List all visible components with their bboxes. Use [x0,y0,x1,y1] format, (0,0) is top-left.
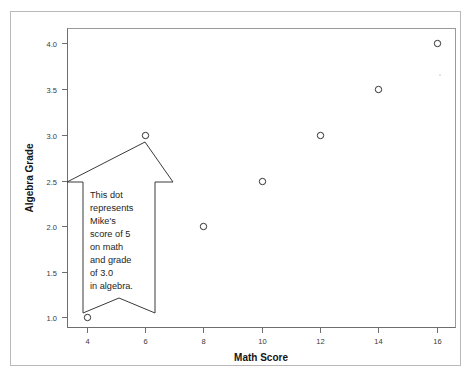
y-tick-label: 2.5 [47,178,57,187]
x-tick-label: 6 [143,337,147,346]
x-tick-label: 16 [433,337,441,346]
y-axis-tick-labels: 4.0 3.5 3.0 2.5 2.0 1.5 1.0 [47,40,57,323]
data-point [317,132,323,138]
print-speck [439,74,441,76]
x-tick-label: 8 [201,337,205,346]
callout-line: of 3.0 [90,268,113,278]
data-point [375,86,381,92]
callout-line: score of 5 [90,229,130,239]
data-point-mike [142,132,148,138]
data-point-series [84,40,440,320]
data-point [84,314,90,320]
x-tick-label: 14 [374,337,382,346]
x-tick-label: 12 [316,337,324,346]
data-point [434,40,440,46]
figure-root: 4.0 3.5 3.0 2.5 2.0 1.5 1.0 4 6 8 10 12 … [0,0,473,378]
y-tick-label: 2.0 [47,223,57,232]
x-tick-label: 4 [85,337,89,346]
callout-line: This dot [90,190,123,200]
callout-line: in algebra. [90,281,133,291]
y-tick-label: 1.5 [47,269,57,278]
scatter-plot: 4.0 3.5 3.0 2.5 2.0 1.5 1.0 4 6 8 10 12 … [0,0,473,378]
callout-line: and grade [90,255,131,265]
callout-text-block: This dot represents Mike's score of 5 on… [90,190,134,291]
x-axis-title: Math Score [234,352,288,363]
y-tick-label: 1.0 [47,314,57,323]
y-axis-title: Algebra Grade [24,143,35,212]
x-axis-ticks [88,328,438,334]
y-axis-ticks [62,44,68,318]
callout-line: represents [90,203,134,213]
y-tick-label: 4.0 [47,40,57,49]
y-tick-label: 3.0 [47,132,57,141]
callout-line: Mike's [90,216,116,226]
data-point [259,178,265,184]
x-axis-tick-labels: 4 6 8 10 12 14 16 [85,337,441,346]
y-tick-label: 3.5 [47,86,57,95]
callout-line: on math [90,242,123,252]
x-tick-label: 10 [258,337,266,346]
data-point [200,223,206,229]
